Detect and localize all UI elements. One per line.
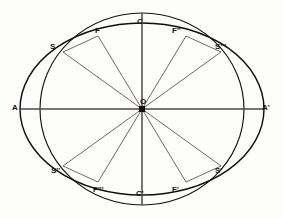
label-point-f-prime: F' bbox=[172, 186, 179, 194]
geometric-figure: O A A' C C' S S''' S'' S' F F'' F''' F' bbox=[0, 0, 283, 218]
label-vertex-c-prime: C' bbox=[136, 190, 144, 198]
radial-line-to-s-double-prime bbox=[63, 109, 142, 166]
label-vertex-c: C bbox=[137, 18, 143, 26]
label-intersection-s-triple-prime: S''' bbox=[215, 43, 226, 51]
label-vertex-a: A bbox=[12, 104, 18, 112]
label-intersection-s: S bbox=[50, 43, 55, 51]
label-point-f-triple-prime: F''' bbox=[93, 186, 104, 194]
label-vertex-a-prime: A' bbox=[262, 104, 270, 112]
label-point-f: F bbox=[95, 27, 100, 35]
label-intersection-s-prime: S' bbox=[215, 167, 222, 175]
radial-line-to-s bbox=[63, 52, 142, 109]
chord-s-to-f bbox=[63, 36, 98, 52]
radial-line-to-f-triple-prime bbox=[98, 109, 142, 182]
radial-line-to-s-triple-prime bbox=[142, 52, 221, 109]
ellipse-diagram-canvas bbox=[0, 0, 283, 218]
radial-line-to-f bbox=[98, 36, 142, 109]
label-center-o: O bbox=[140, 98, 146, 106]
center-node-marker bbox=[139, 106, 145, 112]
radial-line-to-f-double-prime bbox=[142, 36, 186, 109]
chord-s-double-prime-to-f-triple-prime bbox=[63, 166, 98, 182]
radial-line-to-f-prime bbox=[142, 109, 186, 182]
label-point-f-double-prime: F'' bbox=[172, 27, 181, 35]
label-intersection-s-double-prime: S'' bbox=[51, 167, 60, 175]
radial-line-to-s-prime bbox=[142, 109, 221, 166]
